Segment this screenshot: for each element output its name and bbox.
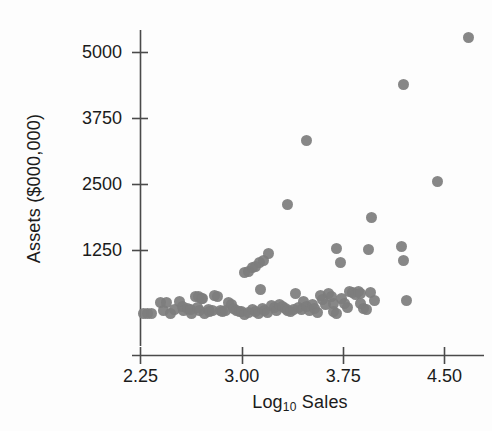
x-axis-title-rest: Sales: [297, 392, 348, 412]
x-tick-label-375: 3.75: [313, 366, 373, 387]
x-tick-label-225: 2.25: [111, 366, 171, 387]
y-tick-label-5000: 5000: [52, 42, 122, 63]
data-point: [331, 308, 342, 319]
data-point: [212, 291, 223, 302]
x-tick-label-300: 3.00: [212, 366, 272, 387]
data-point: [331, 243, 342, 254]
data-point: [335, 257, 346, 268]
data-point: [361, 304, 372, 315]
data-point: [146, 308, 157, 319]
data-point: [301, 135, 312, 146]
y-tick-label-1250: 1250: [52, 240, 122, 261]
data-point: [401, 295, 412, 306]
y-tick-label-2500: 2500: [52, 174, 122, 195]
y-axis-title: Assets ($000,000): [24, 69, 45, 309]
data-point: [282, 199, 293, 210]
x-axis-title: Log10 Sales: [150, 392, 450, 413]
x-axis-title-subscript: 10: [283, 400, 297, 414]
x-tick-label-450: 4.50: [415, 366, 475, 387]
data-point: [432, 176, 443, 187]
data-point: [342, 302, 353, 313]
y-tick-label-3750: 3750: [52, 108, 122, 129]
data-point: [369, 295, 380, 306]
data-point: [255, 284, 266, 295]
data-point: [396, 241, 407, 252]
scatter-plot-figure: Assets ($000,000) Log10 Sales 1250250037…: [0, 0, 492, 431]
x-axis-title-base: Log: [252, 392, 283, 412]
